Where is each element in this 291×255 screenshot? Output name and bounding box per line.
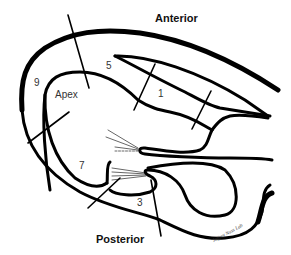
region-label-3: 3 — [137, 197, 143, 208]
fiber-lines-lower — [112, 168, 146, 180]
ca-upper-fold — [140, 130, 272, 160]
region-label-9: 9 — [34, 77, 40, 88]
inner-top-band — [115, 56, 268, 116]
inner-top-band-lower — [115, 56, 270, 116]
posterior-label: Posterior — [96, 233, 144, 245]
cut-line-9 — [28, 112, 69, 143]
fiber-lines-upper — [106, 130, 138, 151]
region-label-7: 7 — [79, 160, 85, 171]
dentate-loop-body — [110, 163, 236, 216]
anterior-label: Anterior — [155, 12, 198, 24]
outer-boundary-right-cap — [258, 193, 272, 222]
dentate-lower-loop — [107, 162, 110, 183]
ca-upper-hook — [212, 115, 268, 130]
region-label-1: 1 — [158, 88, 164, 99]
region-label-5: 5 — [106, 60, 112, 71]
apex-label: Apex — [55, 89, 78, 100]
cut-line-5 — [68, 15, 89, 88]
hippocampus-diagram — [0, 0, 291, 255]
